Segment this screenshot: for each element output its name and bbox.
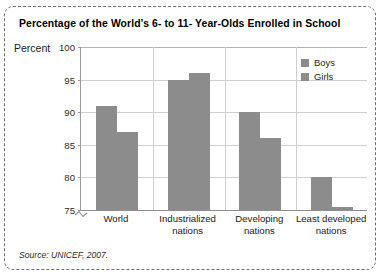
category-label-2: Developingnations: [224, 213, 296, 236]
category-label-1: Industrializednations: [152, 213, 224, 236]
y-tick-80: 80: [64, 172, 75, 183]
category-label-3: Least developednations: [295, 213, 367, 236]
category-label-line1: World: [80, 213, 152, 225]
y-tick-mark-85: [78, 145, 81, 146]
legend-item-girls: Girls: [301, 71, 367, 82]
y-tick-95: 95: [64, 74, 75, 85]
bar-girls-2: [260, 138, 281, 210]
gridline-90: [81, 112, 367, 113]
gridline-100: [81, 47, 367, 48]
plot-wrapper: 1009590858075 WorldIndustrializednations…: [5, 7, 377, 271]
category-label-line2: nations: [224, 225, 296, 237]
group-separator-3: [296, 47, 297, 210]
y-axis-tick-labels: 1009590858075: [41, 47, 75, 210]
group-separator-2: [225, 47, 226, 210]
category-label-line1: Industrialized: [152, 213, 224, 225]
legend-item-boys: Boys: [301, 57, 367, 68]
bar-boys-2: [239, 112, 260, 210]
y-tick-mark-100: [78, 47, 81, 48]
bar-girls-1: [189, 73, 210, 210]
category-label-0: World: [80, 213, 152, 225]
y-tick-mark-80: [78, 177, 81, 178]
category-label-line2: nations: [295, 225, 367, 237]
legend-swatch-icon: [301, 73, 309, 81]
bar-boys-1: [168, 80, 189, 210]
y-tick-100: 100: [59, 42, 75, 53]
y-tick-mark-90: [78, 112, 81, 113]
bar-boys-0: [96, 106, 117, 210]
y-tick-mark-95: [78, 80, 81, 81]
chart-figure: Percentage of the World’s 6- to 11- Year…: [4, 6, 376, 270]
category-label-line1: Developing: [224, 213, 296, 225]
bar-boys-3: [311, 177, 332, 210]
legend-label: Girls: [314, 71, 333, 82]
legend-label: Boys: [314, 57, 335, 68]
source-note: Source: UNICEF, 2007.: [19, 250, 108, 260]
y-tick-85: 85: [64, 139, 75, 150]
legend-swatch-icon: [301, 59, 309, 67]
y-tick-90: 90: [64, 107, 75, 118]
bar-girls-0: [117, 132, 138, 210]
x-axis-baseline: [80, 210, 367, 211]
group-separator-1: [153, 47, 154, 210]
chart-legend: BoysGirls: [301, 57, 367, 85]
category-label-line2: nations: [152, 225, 224, 237]
x-axis-category-labels: WorldIndustrializednationsDevelopingnati…: [80, 213, 367, 253]
category-label-line1: Least developed: [295, 213, 367, 225]
